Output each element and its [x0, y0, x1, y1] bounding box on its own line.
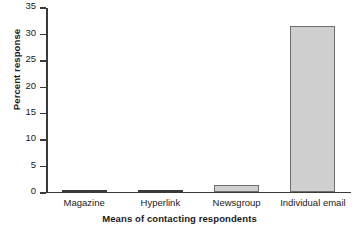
x-axis-title: Means of contacting respondents: [0, 213, 359, 224]
plot-area: 05101520253035: [46, 8, 351, 193]
x-axis-tick-labels: MagazineHyperlinkNewsgroupIndividual ema…: [46, 197, 351, 211]
bar-slot: [275, 8, 351, 192]
bar[interactable]: [138, 190, 183, 192]
y-axis-tick-label: 20: [25, 80, 36, 91]
y-axis-tick-label: 0: [31, 185, 36, 196]
x-axis-tick-label: Hyperlink: [122, 197, 198, 208]
bar[interactable]: [290, 26, 335, 191]
y-axis-tick-label: 25: [25, 53, 36, 64]
bar-slot: [46, 8, 122, 192]
bar-slot: [199, 8, 275, 192]
y-axis-tick-label: 5: [31, 159, 36, 170]
x-axis-tick-label: Individual email: [275, 197, 351, 208]
y-axis-tick-label: 30: [25, 27, 36, 38]
y-axis-tick-label: 10: [25, 132, 36, 143]
bar[interactable]: [214, 185, 259, 191]
x-axis-line: [46, 192, 351, 194]
bar-chart: Percent response 05101520253035 Magazine…: [0, 0, 359, 230]
bar-series: [46, 8, 351, 192]
y-axis-tick-label: 15: [25, 106, 36, 117]
x-axis-tick-label: Magazine: [46, 197, 122, 208]
y-axis-title: Percent response: [11, 0, 22, 140]
bar-slot: [122, 8, 198, 192]
bar[interactable]: [62, 190, 107, 192]
y-axis-tick: 0: [40, 192, 46, 194]
y-axis-tick-label: 35: [25, 0, 36, 11]
x-axis-tick-label: Newsgroup: [199, 197, 275, 208]
